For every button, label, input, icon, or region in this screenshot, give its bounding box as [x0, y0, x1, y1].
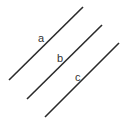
label-c: c — [75, 71, 81, 83]
line-a — [9, 7, 83, 80]
parallel-lines-diagram: a b c — [0, 0, 125, 122]
label-b: b — [57, 52, 63, 64]
label-a: a — [38, 32, 45, 44]
